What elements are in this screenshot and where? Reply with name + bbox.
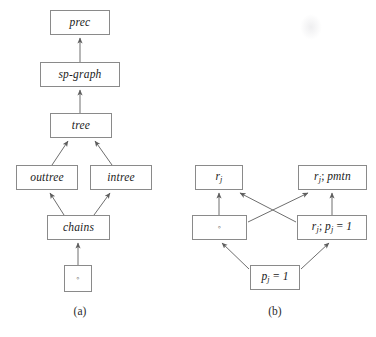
empty-set-symbol: ◦ — [76, 274, 79, 283]
node-tree: tree — [50, 113, 112, 138]
node-label: outtree — [30, 171, 64, 183]
edge-outtree-tree — [52, 141, 68, 165]
node-outtree: outtree — [16, 165, 78, 190]
figure-canvas: prec sp-graph tree outtree intree chains… — [0, 0, 376, 337]
empty-set-symbol: ◦ — [218, 223, 221, 232]
edge-b-pj1-rjpj1 — [301, 243, 329, 269]
node-label: pj = 1 — [261, 270, 288, 284]
node-sp-graph: sp-graph — [40, 62, 120, 87]
subfigure-caption-b: (b) — [250, 305, 300, 317]
node-empty-b: ◦ — [192, 215, 247, 240]
subfigure-caption-a: (a) — [50, 305, 110, 317]
edge-chains-intree — [94, 193, 110, 215]
node-rj: rj — [195, 165, 243, 190]
edge-intree-tree — [95, 141, 112, 165]
node-label: chains — [63, 221, 94, 233]
node-label: rj; pmtn — [314, 170, 351, 184]
node-empty-a: ◦ — [64, 265, 92, 292]
edge-b-rjpj1-rj — [240, 193, 296, 222]
edge-chains-outtree — [50, 193, 64, 215]
node-intree: intree — [90, 165, 152, 190]
node-rj-pj1: rj; pj = 1 — [297, 215, 367, 240]
node-chains: chains — [47, 215, 110, 240]
edge-b-pj1-empty — [222, 243, 249, 269]
node-label: rj — [215, 170, 222, 184]
node-label: sp-graph — [58, 68, 101, 80]
node-rj-pmtn: rj; pmtn — [298, 165, 367, 190]
node-label: tree — [72, 119, 90, 131]
node-prec: prec — [50, 10, 110, 35]
node-pj1: pj = 1 — [250, 265, 300, 290]
node-label: prec — [70, 16, 91, 28]
node-label: intree — [107, 171, 135, 183]
node-label: rj; pj = 1 — [312, 220, 352, 234]
